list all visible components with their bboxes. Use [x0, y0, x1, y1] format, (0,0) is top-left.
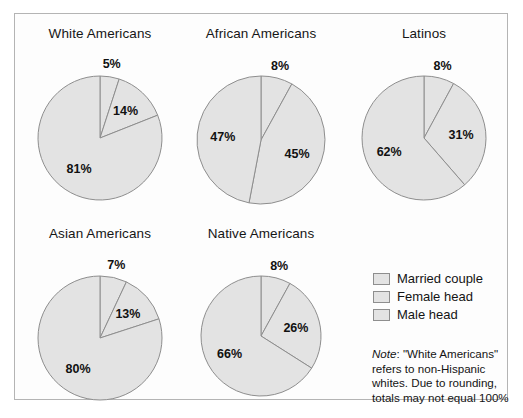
pie-slice-label: 5%	[103, 57, 121, 71]
chart-frame: White Americans 5%14%81% African America…	[14, 13, 508, 400]
panel-title: African Americans	[178, 26, 344, 41]
legend-swatch-icon	[373, 309, 390, 321]
pie-slice-label: 8%	[271, 59, 289, 73]
pie-panel-asian-americans: Asian Americans 7%13%80%	[21, 226, 179, 404]
pie-panel-white-americans: White Americans 5%14%81%	[21, 26, 179, 204]
legend-swatch-icon	[373, 291, 390, 303]
pie-svg: 8%45%47%	[173, 52, 349, 228]
legend-item-label: Female head	[397, 290, 473, 303]
pie-slice-label: 13%	[115, 307, 140, 321]
pie-chart: 8%31%62%	[338, 52, 510, 224]
pie-slice-label: 8%	[433, 59, 451, 73]
pie-svg: 7%13%80%	[14, 252, 186, 418]
pie-slice-label: 31%	[448, 128, 473, 142]
note-lead: Note	[372, 347, 397, 360]
pie-slice-label: 80%	[66, 362, 91, 376]
pie-chart: 7%13%80%	[14, 252, 186, 418]
panel-title: Asian Americans	[21, 226, 179, 241]
legend-swatch-icon	[373, 273, 390, 285]
legend: Married couple Female head Male head	[373, 270, 483, 324]
pie-slice-label: 26%	[283, 321, 308, 335]
pie-slice-label: 7%	[107, 258, 125, 272]
pie-slice-label: 14%	[113, 104, 138, 118]
pie-svg: 8%31%62%	[338, 52, 510, 224]
pie-chart: 5%14%81%	[14, 52, 186, 224]
panel-title: White Americans	[21, 26, 179, 41]
legend-item-label: Male head	[397, 308, 458, 321]
pie-svg: 8%26%66%	[177, 252, 345, 418]
pie-slice-label: 62%	[377, 145, 402, 159]
pie-panel-african-americans: African Americans 8%45%47%	[178, 26, 344, 204]
pie-chart: 8%26%66%	[177, 252, 345, 418]
panel-title: Native Americans	[178, 226, 344, 241]
legend-item-male-head: Male head	[373, 306, 483, 323]
legend-item-label: Married couple	[397, 272, 483, 285]
pie-slice-label: 47%	[210, 130, 235, 144]
pie-slice-label: 66%	[217, 347, 242, 361]
pie-slice-label: 8%	[270, 259, 288, 273]
figure-note: Note: "White Americans" refers to non-Hi…	[372, 347, 522, 405]
panel-title: Latinos	[345, 26, 503, 41]
pie-slice-label: 45%	[285, 147, 310, 161]
pie-slice-label: 81%	[67, 162, 92, 176]
pie-svg: 5%14%81%	[14, 52, 186, 224]
pie-chart: 8%45%47%	[173, 52, 349, 228]
legend-item-married-couple: Married couple	[373, 270, 483, 287]
figure-root: White Americans 5%14%81% African America…	[0, 0, 523, 418]
pie-panel-native-americans: Native Americans 8%26%66%	[178, 226, 344, 404]
pie-panel-latinos: Latinos 8%31%62%	[345, 26, 503, 204]
legend-item-female-head: Female head	[373, 288, 483, 305]
